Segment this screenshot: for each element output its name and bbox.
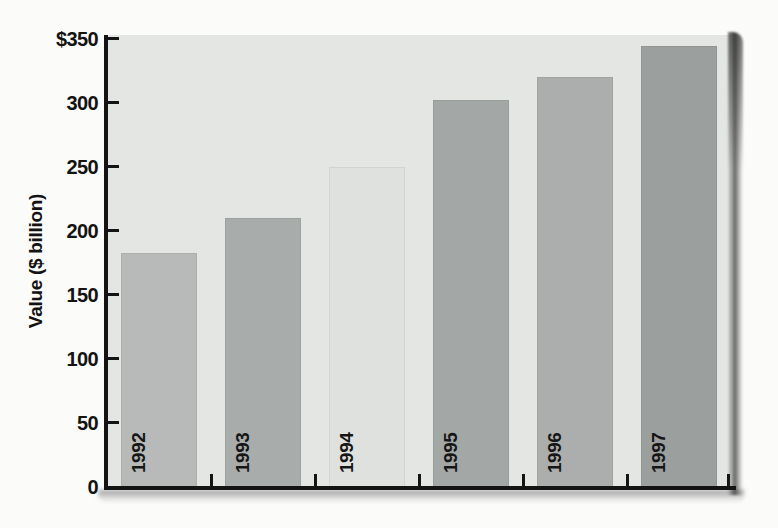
y-axis-line xyxy=(104,35,108,490)
bar-year-label: 1997 xyxy=(649,433,669,473)
y-tick-label: 250 xyxy=(20,157,98,177)
y-tick xyxy=(107,421,119,424)
bar-1997: 1997 xyxy=(641,46,717,487)
bar-year-label: 1995 xyxy=(441,433,461,473)
plot-area: 199219931994199519961997 xyxy=(107,35,731,487)
bar-1994: 1994 xyxy=(329,167,405,487)
y-tick-label: 200 xyxy=(20,221,98,241)
bar-year-label: 1992 xyxy=(129,433,149,473)
y-tick-label: 100 xyxy=(20,349,98,369)
page-edge-shadow xyxy=(728,32,743,495)
panel-drop-shadow xyxy=(98,490,744,503)
y-tick-label: 150 xyxy=(20,285,98,305)
bar-1992: 1992 xyxy=(121,253,197,487)
x-axis-line xyxy=(104,486,736,490)
bar-year-label: 1994 xyxy=(337,433,357,473)
bar-1996: 1996 xyxy=(537,77,613,487)
bar-year-label: 1996 xyxy=(545,433,565,473)
y-axis-title: Value ($ billion) xyxy=(25,194,47,328)
bar-1995: 1995 xyxy=(433,100,509,487)
y-tick-label: 300 xyxy=(20,93,98,113)
y-tick xyxy=(107,101,119,104)
y-tick xyxy=(107,37,119,40)
y-tick-label: 50 xyxy=(20,413,98,433)
chart-figure: 199219931994199519961997 Value ($ billio… xyxy=(0,0,778,528)
y-tick xyxy=(107,229,119,232)
bar-year-label: 1993 xyxy=(233,433,253,473)
y-tick xyxy=(107,357,119,360)
bar-1993: 1993 xyxy=(225,218,301,487)
y-tick xyxy=(107,165,119,168)
y-tick-label: $350 xyxy=(20,29,98,49)
y-tick-label: 0 xyxy=(20,477,98,497)
y-tick xyxy=(107,293,119,296)
